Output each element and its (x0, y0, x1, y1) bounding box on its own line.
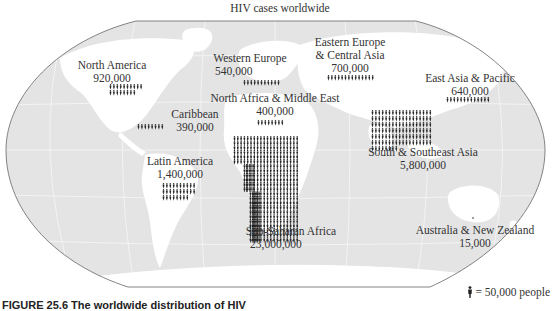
label-sub-saharan-africa: Sub-Saharan Africa 23,000,000 (236, 225, 346, 251)
region-value: 640,000 (410, 85, 530, 98)
figure-caption: FIGURE 25.6 The worldwide distribution o… (2, 299, 246, 311)
region-name: Latin America (147, 155, 213, 167)
region-name: & Central Asia (300, 49, 400, 62)
person-icon (467, 286, 473, 298)
region-name: North America (78, 59, 147, 71)
region-value: 15,000 (400, 237, 550, 250)
region-value: 540,000 (205, 65, 295, 78)
region-name: South & Southeast Asia (368, 146, 478, 158)
region-value: 400,000 (200, 105, 350, 118)
region-value: 1,400,000 (135, 168, 225, 181)
region-value: 5,800,000 (358, 159, 488, 172)
region-name: Eastern Europe (300, 36, 400, 49)
label-east-asia: East Asia & Pacific 640,000 (410, 72, 530, 98)
region-value: 700,000 (300, 62, 400, 75)
legend-text: = 50,000 people (475, 286, 550, 298)
region-value: 920,000 (57, 72, 167, 85)
legend: = 50,000 people (467, 286, 550, 298)
label-western-europe: Western Europe 540,000 (205, 52, 295, 78)
region-name: Western Europe (213, 52, 286, 64)
label-latin-america: Latin America 1,400,000 (135, 155, 225, 181)
region-value: 23,000,000 (236, 238, 346, 251)
label-south-asia: South & Southeast Asia 5,800,000 (358, 146, 488, 172)
label-australia: Australia & New Zealand 15,000 (400, 224, 550, 250)
region-name: Sub-Saharan Africa (246, 225, 336, 237)
region-name: Australia & New Zealand (416, 224, 534, 236)
region-name: North Africa & Middle East (210, 92, 339, 104)
region-name: East Asia & Pacific (425, 72, 515, 84)
label-eastern-europe: Eastern Europe & Central Asia 700,000 (300, 36, 400, 75)
label-north-america: North America 920,000 (57, 59, 167, 85)
region-value: 390,000 (160, 121, 230, 134)
label-north-africa: North Africa & Middle East 400,000 (200, 92, 350, 118)
